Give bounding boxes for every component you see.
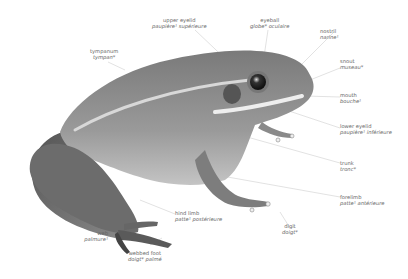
tympanum: [223, 84, 241, 104]
webbed-foot: [118, 230, 172, 248]
label-webbed-foot: webbed foot doigt* palmé: [128, 250, 162, 263]
label-lower-eyelid: lower eyelid paupière¹ inférieure: [340, 123, 392, 136]
label-nostril: nostril narine¹: [320, 28, 339, 41]
label-snout: snout museau*: [340, 58, 363, 71]
label-trunk: trunk tronc*: [340, 160, 356, 173]
label-web: web palmure¹: [80, 230, 108, 243]
label-forelimb: forelimb patte¹ antérieure: [340, 194, 385, 207]
label-tympanum: tympanum tympan*: [90, 48, 118, 61]
label-eyeball: eyeball globe* oculaire: [250, 17, 289, 30]
frog-illustration: [0, 0, 408, 279]
label-digit: digit doigt*: [282, 223, 298, 236]
label-upper-eyelid: upper eyelid paupière¹ supérieure: [152, 17, 207, 30]
label-mouth: mouth bouche¹: [340, 92, 361, 105]
label-hind-limb: hind limb patte¹ postérieure: [175, 210, 222, 223]
